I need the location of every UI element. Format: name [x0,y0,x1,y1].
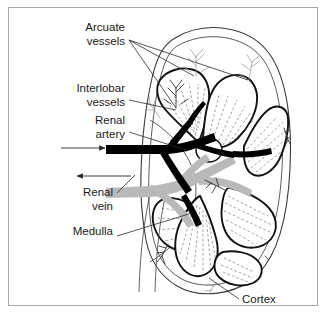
label-medulla: Medulla [73,225,114,237]
kidney-diagram: Arcuate vessels Interlobar vessels Renal… [0,0,330,325]
kidney-body [106,28,292,298]
label-arcuate-vessels-line1: Arcuate [85,21,125,33]
label-interlobar-vessels-line2: vessels [87,96,126,108]
label-interlobar-vessels-line1: Interlobar [76,82,125,94]
label-arcuate-vessels-line2: vessels [87,35,126,47]
label-cortex: Cortex [242,293,276,305]
label-renal-artery-line2: artery [96,128,126,140]
label-renal-vein-line2: vein [92,200,113,212]
label-renal-vein-line1: Renal [83,186,113,198]
label-renal-artery-line1: Renal [95,114,125,126]
figure-root: Arcuate vessels Interlobar vessels Renal… [0,0,330,325]
